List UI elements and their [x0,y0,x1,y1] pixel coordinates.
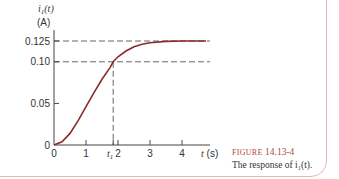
y-tick-label: 0.05 [31,98,51,109]
x-tick-label: 2 [115,148,121,159]
caption-text: The response of i₁(t). [232,159,312,171]
t1-label: t1 [107,148,113,161]
y-axis-label: i1(t) [38,3,54,16]
x-tick-label: 0 [51,148,57,159]
figure-word: FIGURE [232,148,263,157]
y-tick-label: 0.10 [31,56,51,67]
figure-number: 14.13-4 [265,147,294,157]
figure-caption: FIGURE 14.13-4 The response of i₁(t). [232,146,312,171]
x-tick-label: 3 [147,148,153,159]
x-tick-label: 4 [179,148,185,159]
y-axis-unit: (A) [37,17,50,28]
x-tick-label: 1 [83,148,89,159]
figure-number-line: FIGURE 14.13-4 [232,146,312,159]
y-tick-label: 0 [44,140,50,151]
series-line-i1 [54,41,206,145]
y-tick-label: 0.125 [25,36,50,47]
x-axis-label: t (s) [201,148,218,159]
